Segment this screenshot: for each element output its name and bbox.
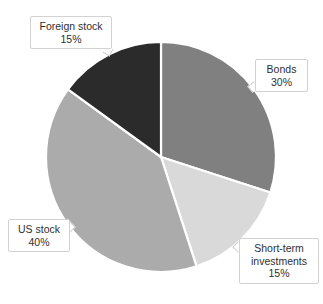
callout-short-term-label-line1: Short-term xyxy=(245,242,313,255)
callout-short-term-label-line2: investments xyxy=(245,255,313,268)
callout-bonds: Bonds 30% xyxy=(255,59,308,92)
callout-short-term-investments: Short-term investments 15% xyxy=(239,238,319,284)
callout-us-stock: US stock 40% xyxy=(8,219,70,252)
callout-foreign-stock-label: Foreign stock xyxy=(36,20,106,33)
callout-foreign-stock-value: 15% xyxy=(36,33,106,46)
pie-chart: Foreign stock 15% Bonds 30% Short-term i… xyxy=(0,0,323,304)
callout-us-stock-value: 40% xyxy=(14,236,64,249)
callout-bonds-value: 30% xyxy=(261,76,302,89)
callout-us-stock-label: US stock xyxy=(14,223,64,236)
callout-bonds-label: Bonds xyxy=(261,63,302,76)
callout-short-term-value: 15% xyxy=(245,267,313,280)
callout-foreign-stock: Foreign stock 15% xyxy=(30,16,112,49)
